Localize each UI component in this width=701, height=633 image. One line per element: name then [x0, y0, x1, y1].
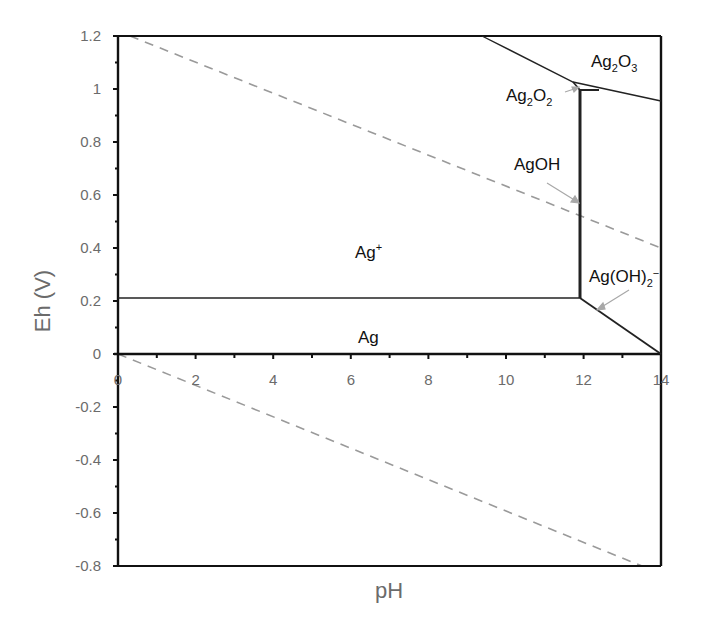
svg-text:-0.8: -0.8 — [75, 557, 101, 574]
svg-text:-0.6: -0.6 — [75, 504, 101, 521]
svg-text:0.6: 0.6 — [80, 186, 101, 203]
svg-text:2: 2 — [191, 371, 199, 388]
svg-text:14: 14 — [653, 371, 670, 388]
label-ag: Ag — [358, 328, 379, 347]
y-ticks — [113, 36, 118, 566]
x-axis-title: pH — [375, 578, 403, 603]
svg-text:0: 0 — [114, 371, 122, 388]
svg-text:-0.2: -0.2 — [75, 398, 101, 415]
svg-text:0.8: 0.8 — [80, 133, 101, 150]
svg-text:-0.4: -0.4 — [75, 451, 101, 468]
eh-ph-diagram: 1.2 1 0.8 0.6 0.4 0.2 0 -0.2 -0.4 -0.6 -… — [0, 0, 701, 633]
svg-text:6: 6 — [347, 371, 355, 388]
y-tick-labels: 1.2 1 0.8 0.6 0.4 0.2 0 -0.2 -0.4 -0.6 -… — [75, 27, 101, 574]
label-agoh: AgOH — [514, 155, 560, 174]
x-tick-labels: 0 2 4 6 8 10 12 14 — [114, 371, 670, 388]
label-agoh2-minus: Ag(OH)2− — [589, 267, 659, 289]
svg-text:1.2: 1.2 — [80, 27, 101, 44]
svg-text:0.4: 0.4 — [80, 239, 101, 256]
svg-text:12: 12 — [575, 371, 592, 388]
svg-text:4: 4 — [269, 371, 277, 388]
label-ag2o2: Ag2O2 — [506, 86, 552, 108]
svg-text:0: 0 — [93, 345, 101, 362]
label-agplus: Ag+ — [355, 241, 382, 262]
label-ag2o3: Ag2O3 — [591, 52, 637, 74]
svg-text:8: 8 — [424, 371, 432, 388]
ag-agoh2-boundary — [580, 298, 661, 354]
svg-text:0.2: 0.2 — [80, 292, 101, 309]
y-axis-title: Eh (V) — [30, 270, 55, 332]
svg-text:1: 1 — [93, 80, 101, 97]
svg-text:10: 10 — [498, 371, 515, 388]
